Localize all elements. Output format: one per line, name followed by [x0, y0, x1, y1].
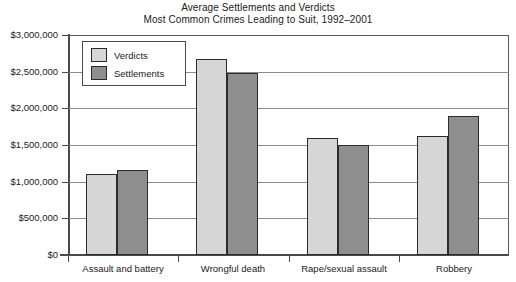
y-axis-tick [62, 145, 69, 146]
y-axis-label: $1,000,000 [0, 177, 58, 187]
x-axis-tick [289, 255, 290, 262]
legend-label-settlements: Settlements [114, 68, 164, 79]
chart-title-block: Average Settlements and Verdicts Most Co… [0, 2, 516, 26]
bar-settlements-0 [117, 170, 148, 255]
y-axis-tick [62, 182, 69, 183]
y-axis-label: $0 [0, 250, 58, 260]
y-axis-label: $2,500,000 [0, 67, 58, 77]
bar-verdicts-2 [307, 138, 338, 255]
legend-item-verdicts: Verdicts [91, 47, 148, 63]
legend-item-settlements: Settlements [91, 65, 164, 81]
x-axis-label: Robbery [399, 263, 509, 275]
y-axis-label: $1,500,000 [0, 140, 58, 150]
y-axis-tick [62, 108, 69, 109]
y-axis-tick [62, 218, 69, 219]
bar-settlements-1 [227, 73, 258, 255]
bar-verdicts-3 [417, 136, 448, 255]
y-axis-label: $3,000,000 [0, 30, 58, 40]
y-axis-tick [62, 72, 69, 73]
bar-chart: Average Settlements and Verdicts Most Co… [0, 0, 516, 282]
legend-swatch-verdicts-icon [91, 48, 107, 62]
legend-swatch-settlements-icon [91, 66, 107, 80]
x-axis-tick [399, 255, 400, 262]
bar-verdicts-0 [86, 174, 117, 255]
bar-settlements-3 [448, 116, 479, 255]
bar-settlements-2 [338, 145, 369, 255]
chart-subtitle: Most Common Crimes Leading to Suit, 1992… [0, 14, 516, 26]
gridline [69, 35, 509, 36]
x-axis-label: Assault and battery [68, 263, 178, 275]
y-axis-tick [62, 35, 69, 36]
x-axis-label: Rape/sexual assault [289, 263, 399, 275]
y-axis-label: $2,000,000 [0, 103, 58, 113]
x-axis-label: Wrongful death [178, 263, 288, 275]
x-axis-tick [178, 255, 179, 262]
y-axis-label: $500,000 [0, 213, 58, 223]
chart-legend: Verdicts Settlements [82, 41, 186, 86]
bar-verdicts-1 [196, 59, 227, 255]
x-axis-tick-origin [68, 255, 69, 262]
chart-title: Average Settlements and Verdicts [181, 2, 335, 13]
gridline [69, 108, 509, 109]
legend-label-verdicts: Verdicts [114, 50, 148, 61]
